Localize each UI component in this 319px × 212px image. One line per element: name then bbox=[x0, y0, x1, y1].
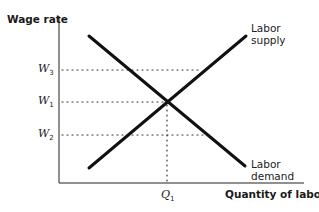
x-axis-title: Quantity of labor bbox=[225, 188, 319, 200]
labor-supply-label-line2: supply bbox=[251, 34, 286, 46]
w1-tick-sub: 1 bbox=[49, 101, 53, 109]
q1-tick-main: Q bbox=[161, 188, 170, 201]
labor-supply-label: Labor supply bbox=[251, 22, 286, 46]
q1-tick-label: Q1 bbox=[161, 188, 175, 203]
w1-tick-label: W1 bbox=[38, 94, 54, 109]
labor-demand-label-line2: demand bbox=[251, 170, 294, 182]
w2-tick-sub: 2 bbox=[49, 134, 53, 142]
w1-tick-main: W bbox=[38, 94, 49, 107]
w3-tick-label: W3 bbox=[38, 62, 54, 77]
labor-demand-label-line1: Labor bbox=[251, 158, 294, 170]
w3-tick-sub: 3 bbox=[49, 69, 53, 77]
w3-tick-main: W bbox=[38, 62, 49, 75]
y-axis-title: Wage rate bbox=[7, 13, 68, 25]
w2-tick-label: W2 bbox=[38, 127, 54, 142]
labor-supply-label-line1: Labor bbox=[251, 22, 286, 34]
q1-tick-sub: 1 bbox=[170, 195, 174, 203]
w2-tick-main: W bbox=[38, 127, 49, 140]
labor-demand-label: Labor demand bbox=[251, 158, 294, 182]
